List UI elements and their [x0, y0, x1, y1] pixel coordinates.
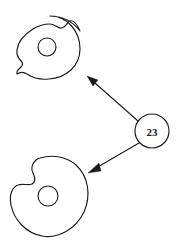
edge-to-top-line [95, 83, 138, 121]
shape-notched-disc-top[interactable] [17, 16, 80, 79]
edge-label-to-bottom-blob[interactable] [88, 143, 139, 173]
shape-notched-disc-bottom[interactable] [10, 156, 88, 236]
blob-top-hole [38, 38, 56, 56]
edge-to-bottom-line [96, 143, 139, 168]
diagram-canvas: 23 [0, 0, 176, 248]
blob-bottom-hole [38, 186, 58, 206]
node-label-text: 23 [147, 126, 159, 138]
edge-to-bottom-arrowhead [88, 163, 101, 173]
edge-label-to-top-blob[interactable] [87, 76, 138, 121]
line-art-diagram: 23 [0, 0, 176, 248]
node-label-23[interactable]: 23 [135, 114, 169, 148]
